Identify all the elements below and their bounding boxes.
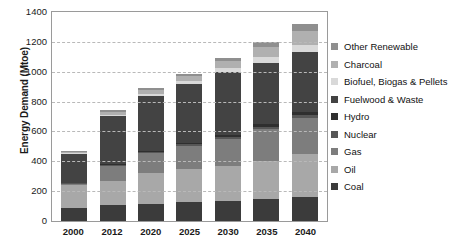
bar-column-2030[interactable] xyxy=(215,12,241,221)
legend-swatch-icon xyxy=(331,148,338,155)
bar-segment xyxy=(215,166,241,201)
legend-item[interactable]: Charcoal xyxy=(331,56,471,74)
bar-segment xyxy=(176,84,202,143)
x-axis-tick-2040: 2040 xyxy=(293,226,319,237)
plot-area xyxy=(51,11,328,222)
bar-segment xyxy=(61,185,87,207)
bar-segment xyxy=(176,146,202,169)
legend-item[interactable]: Biofuel, Biogas & Pellets xyxy=(331,73,471,91)
x-axis-tick-2025: 2025 xyxy=(176,226,202,237)
bar-column-2020[interactable] xyxy=(138,12,164,221)
legend-label: Other Renewable xyxy=(344,41,418,52)
bar-segment xyxy=(138,173,164,204)
x-axis-tick-2000: 2000 xyxy=(60,226,86,237)
legend-swatch-icon xyxy=(331,43,338,50)
bar-segment xyxy=(176,169,202,202)
x-axis-tick-labels: 2000201220202025203020352040 xyxy=(51,226,328,242)
bar-segment xyxy=(215,61,241,68)
legend-item[interactable]: Nuclear xyxy=(331,126,471,144)
x-axis-tick-2035: 2035 xyxy=(254,226,280,237)
bar-column-2000[interactable] xyxy=(61,12,87,221)
bar-segment xyxy=(215,72,241,135)
legend-item[interactable]: Gas xyxy=(331,143,471,161)
bar-segment xyxy=(100,166,126,181)
legend: Other RenewableCharcoalBiofuel, Biogas &… xyxy=(331,38,471,196)
gridline-800 xyxy=(52,102,327,103)
legend-swatch-icon xyxy=(331,113,338,120)
legend-swatch-icon xyxy=(331,131,338,138)
legend-label: Fuelwood & Waste xyxy=(344,94,423,105)
bar-segment xyxy=(100,205,126,221)
y-axis-tick-400: 400 xyxy=(31,155,47,166)
bar-segment xyxy=(61,208,87,221)
gridline-1200 xyxy=(52,42,327,43)
legend-swatch-icon xyxy=(331,166,338,173)
y-axis-tick-200: 200 xyxy=(31,185,47,196)
bar-segment xyxy=(138,153,164,173)
bar-group xyxy=(52,12,327,221)
bar-segment xyxy=(292,52,318,112)
legend-item[interactable]: Coal xyxy=(331,178,471,196)
bar-segment xyxy=(292,118,318,154)
legend-swatch-icon xyxy=(331,183,338,190)
x-axis-tick-2012: 2012 xyxy=(99,226,125,237)
y-axis-tick-1000: 1000 xyxy=(26,65,47,76)
y-axis-tick-0: 0 xyxy=(42,215,47,226)
y-axis-tick-1200: 1200 xyxy=(26,35,47,46)
bar-segment xyxy=(292,197,318,221)
legend-item[interactable]: Other Renewable xyxy=(331,38,471,56)
bar-column-2025[interactable] xyxy=(176,12,202,221)
x-axis-tick-2020: 2020 xyxy=(138,226,164,237)
legend-label: Hydro xyxy=(344,111,369,122)
bar-segment xyxy=(61,154,87,183)
gridline-400 xyxy=(52,161,327,162)
legend-swatch-icon xyxy=(331,96,338,103)
bar-column-2040[interactable] xyxy=(292,12,318,221)
legend-label: Oil xyxy=(344,164,356,175)
y-axis-tick-800: 800 xyxy=(31,95,47,106)
bar-segment xyxy=(292,24,318,31)
bar-segment xyxy=(253,199,279,221)
legend-label: Biofuel, Biogas & Pellets xyxy=(344,76,448,87)
gridline-200 xyxy=(52,191,327,192)
bar-segment xyxy=(100,181,126,206)
bar-column-2012[interactable] xyxy=(100,12,126,221)
y-axis-tick-labels: 1400120010008006004002000 xyxy=(14,8,47,222)
legend-label: Charcoal xyxy=(344,59,382,70)
bar-segment xyxy=(253,161,279,199)
bar-segment xyxy=(138,204,164,221)
bar-segment xyxy=(100,116,126,164)
legend-label: Nuclear xyxy=(344,129,377,140)
y-axis-tick-600: 600 xyxy=(31,125,47,136)
legend-item[interactable]: Oil xyxy=(331,161,471,179)
legend-item[interactable]: Hydro xyxy=(331,108,471,126)
bar-segment xyxy=(215,201,241,221)
legend-swatch-icon xyxy=(331,78,338,85)
legend-item[interactable]: Fuelwood & Waste xyxy=(331,91,471,109)
bar-segment xyxy=(253,47,279,58)
gridline-600 xyxy=(52,131,327,132)
bar-column-2035[interactable] xyxy=(253,12,279,221)
bar-segment xyxy=(138,96,164,151)
legend-label: Coal xyxy=(344,181,364,192)
x-axis-tick-2030: 2030 xyxy=(215,226,241,237)
y-axis-tick-1400: 1400 xyxy=(26,6,47,17)
bar-segment xyxy=(292,45,318,52)
bar-segment xyxy=(253,129,279,161)
bar-segment xyxy=(176,202,202,221)
gridline-1000 xyxy=(52,72,327,73)
legend-label: Gas xyxy=(344,146,361,157)
chart-root: Energy Demand (Mtoe) 1400120010008006004… xyxy=(0,0,472,251)
legend-swatch-icon xyxy=(331,61,338,68)
